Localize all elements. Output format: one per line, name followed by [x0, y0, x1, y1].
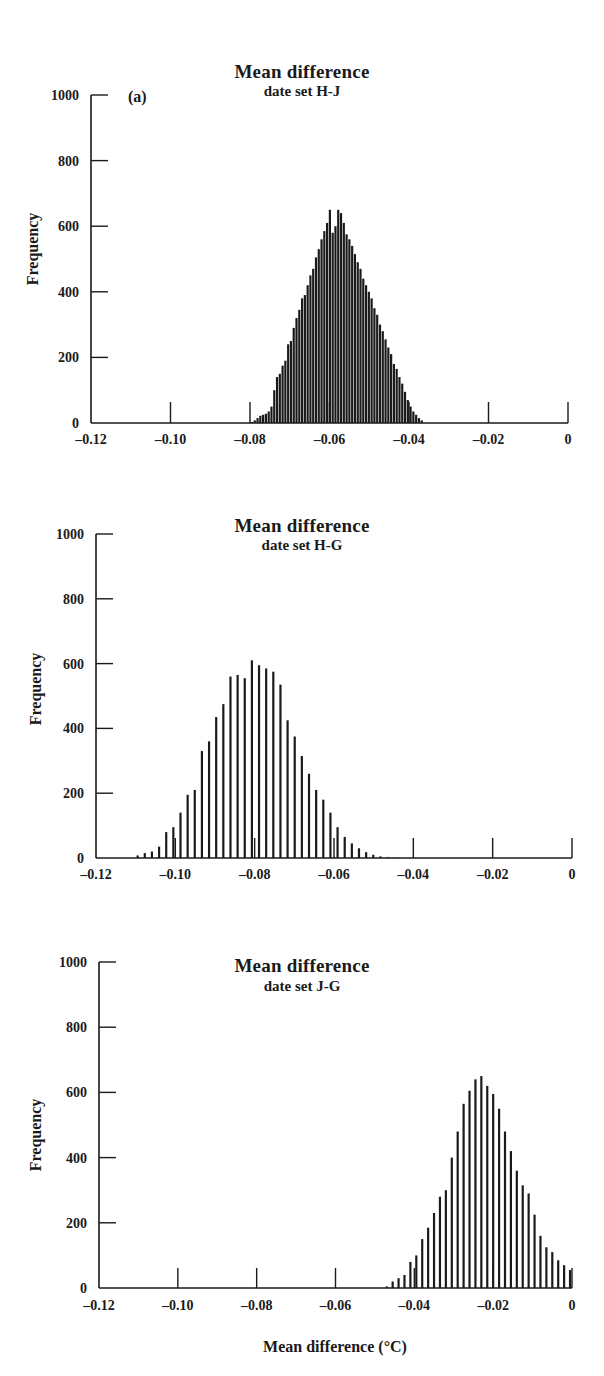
x-tick-label: –0.02	[476, 1298, 509, 1313]
histogram-panel-j-g: Mean difference date set J-G Frequency 0…	[0, 0, 604, 1376]
x-axis-label: Mean difference (°C)	[0, 1338, 604, 1356]
y-tick-label: 600	[66, 1085, 87, 1100]
x-tick-label: –0.10	[161, 1298, 194, 1313]
x-tick-label: –0.06	[319, 1298, 352, 1313]
histogram-plot: 02004006008001000–0.12–0.10–0.08–0.06–0.…	[0, 0, 604, 1376]
y-tick-label: 200	[66, 1216, 87, 1231]
x-tick-label: –0.08	[240, 1298, 273, 1313]
x-tick-label: 0	[569, 1298, 576, 1313]
y-tick-label: 0	[80, 1281, 87, 1296]
y-tick-label: 1000	[59, 955, 87, 970]
y-tick-label: 400	[66, 1151, 87, 1166]
x-tick-label: –0.04	[398, 1298, 431, 1313]
y-tick-label: 800	[66, 1020, 87, 1035]
x-tick-label: –0.12	[82, 1298, 115, 1313]
